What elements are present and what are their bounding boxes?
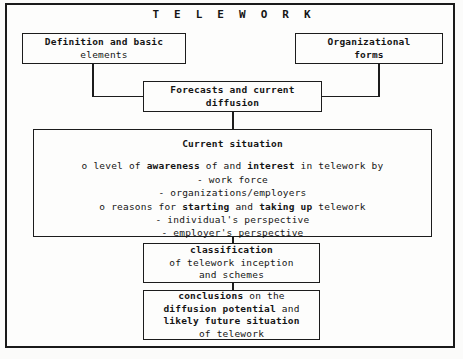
bullet-1-part-3: of and xyxy=(200,160,247,171)
node-definition-line-1: Definition and basic xyxy=(45,36,163,49)
bullet-2-part-5: telework xyxy=(312,201,365,212)
node-definition-line-2: elements xyxy=(80,49,127,62)
node-classification-line-2: of telework inception xyxy=(169,257,293,270)
node-organizational-line-2: forms xyxy=(354,49,384,62)
bullet-1-part-2: awareness xyxy=(147,160,200,171)
bullet-2-part-2: starting xyxy=(182,201,229,212)
node-conclusions[interactable]: conclusions on the diffusion potential a… xyxy=(143,290,320,340)
connector-organizational-vertical xyxy=(378,64,380,97)
bullet-1-part-5: in telework by xyxy=(295,160,384,171)
node-current-situation-bullet-1-sub-1: - work force xyxy=(197,173,268,186)
node-conclusions-line-4: of telework xyxy=(199,328,264,341)
bullet-1-part-1: level of xyxy=(93,160,146,171)
bullet-2-part-3: and xyxy=(230,201,260,212)
node-classification-line-1: classification xyxy=(190,244,273,257)
bullet-2-part-4: taking up xyxy=(259,201,312,212)
node-conclusions-line-2: diffusion potential and xyxy=(163,303,299,316)
node-conclusions-line-1-tail: on the xyxy=(243,290,284,301)
bullet-1-part-4: interest xyxy=(247,160,294,171)
bullet-2-part-1: reasons for xyxy=(111,201,182,212)
node-current-situation-bullet-1-sub-2: - organizations/employers xyxy=(159,186,307,199)
node-definition-and-basic-elements[interactable]: Definition and basic elements xyxy=(22,33,186,64)
node-current-situation-bullet-2-sub-1: - individual's perspective xyxy=(156,213,310,226)
figure-title: T E L E W O R K xyxy=(0,8,463,21)
node-organizational-line-1: Organizational xyxy=(328,36,411,49)
connector-forecasts-to-current-situation xyxy=(232,112,234,130)
node-current-situation-bullet-2: o reasons for starting and taking up tel… xyxy=(99,200,365,213)
connector-definition-vertical xyxy=(92,64,94,97)
node-conclusions-line-2-tail: and xyxy=(276,303,300,314)
connector-organizational-horizontal xyxy=(321,96,379,98)
node-conclusions-line-2-bold: diffusion potential xyxy=(163,303,275,314)
connector-definition-horizontal xyxy=(92,96,144,98)
node-forecasts-line-2: diffusion xyxy=(206,97,259,110)
node-conclusions-line-1-bold: conclusions xyxy=(178,290,243,301)
node-current-situation[interactable]: Current situation o level of awareness o… xyxy=(33,129,432,237)
node-current-situation-bullet-1: o level of awareness of and interest in … xyxy=(82,159,384,172)
node-forecasts-line-1: Forecasts and current xyxy=(170,84,294,97)
node-forecasts-and-current-diffusion[interactable]: Forecasts and current diffusion xyxy=(143,81,322,112)
node-classification-line-3: and schemes xyxy=(199,269,264,282)
node-organizational-forms[interactable]: Organizational forms xyxy=(295,33,443,64)
node-current-situation-heading: Current situation xyxy=(182,137,283,150)
node-conclusions-line-3: likely future situation xyxy=(163,315,299,328)
figure-canvas: T E L E W O R K Definition and basic ele… xyxy=(0,0,463,359)
node-conclusions-line-1: conclusions on the xyxy=(178,290,285,303)
node-classification[interactable]: classification of telework inception and… xyxy=(143,243,320,283)
